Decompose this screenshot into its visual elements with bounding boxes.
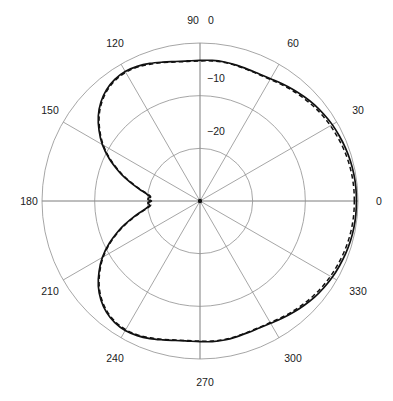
radial-label-minus10: −10 bbox=[207, 72, 225, 84]
angle-label-180: 180 bbox=[20, 195, 38, 207]
angular-gridline-330 bbox=[200, 201, 337, 280]
angle-label-330: 330 bbox=[349, 285, 367, 297]
angle-label-30: 30 bbox=[352, 104, 364, 116]
angular-gridline-120 bbox=[121, 64, 200, 201]
angle-label-90: 90 bbox=[187, 14, 199, 26]
angle-label-0: 0 bbox=[376, 195, 382, 207]
radial-tick-labels: 0 −10 −20 bbox=[207, 14, 225, 137]
polar-chart-canvas: 0 30 60 90 120 150 180 210 240 270 300 3… bbox=[0, 0, 393, 401]
radial-label-0: 0 bbox=[208, 14, 214, 26]
radial-label-minus20: −20 bbox=[207, 125, 225, 137]
angular-gridline-150 bbox=[63, 122, 200, 201]
angular-gridline-300 bbox=[200, 201, 279, 338]
angle-label-270: 270 bbox=[196, 376, 214, 388]
angle-label-60: 60 bbox=[287, 37, 299, 49]
angle-label-120: 120 bbox=[106, 37, 124, 49]
angle-label-210: 210 bbox=[41, 285, 59, 297]
angular-gridline-240 bbox=[121, 201, 200, 338]
polar-origin-marker bbox=[198, 199, 202, 203]
angle-label-300: 300 bbox=[284, 352, 302, 364]
angle-label-240: 240 bbox=[106, 352, 124, 364]
polar-plot-figure: 0 30 60 90 120 150 180 210 240 270 300 3… bbox=[0, 0, 393, 401]
angular-gridline-210 bbox=[63, 201, 200, 280]
angle-label-150: 150 bbox=[41, 104, 59, 116]
grid-layer bbox=[42, 43, 358, 359]
